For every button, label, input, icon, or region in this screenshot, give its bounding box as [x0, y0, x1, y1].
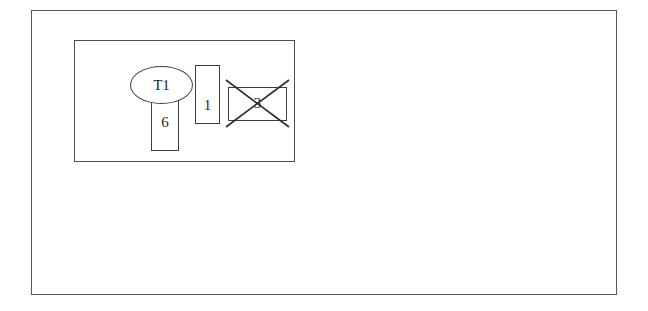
node-label-t1: T1	[131, 67, 192, 103]
node-label-3: 3	[229, 95, 286, 112]
outer-frame: T1 6 1 3	[31, 10, 617, 295]
node-ellipse-t1[interactable]: T1	[130, 66, 193, 104]
diagram-canvas: T1 6 1 3	[0, 0, 648, 311]
node-label-1: 1	[196, 97, 219, 114]
node-label-6: 6	[152, 114, 178, 131]
node-rect-1[interactable]: 1	[195, 65, 220, 124]
node-rect-3-crossed[interactable]: 3	[228, 87, 287, 121]
